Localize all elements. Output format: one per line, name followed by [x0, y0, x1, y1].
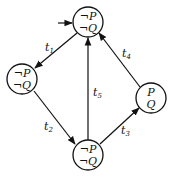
node-left-line2: ¬Q [13, 79, 31, 92]
state-node-right: P Q [136, 83, 166, 113]
edge-label-t1: t1 [45, 41, 54, 55]
edge-t2 [34, 91, 75, 144]
edge-label-t3: t3 [121, 124, 130, 138]
node-right-line2: Q [146, 98, 155, 111]
edge-t4 [99, 33, 140, 87]
edge-label-t4: t4 [122, 47, 131, 61]
edge-t1 [35, 33, 77, 68]
edge-label-t2: t2 [44, 120, 53, 134]
state-node-bottom: ¬P ¬Q [73, 140, 103, 170]
edge-label-t5: t5 [93, 86, 102, 100]
state-node-top: ¬P ¬Q [73, 7, 103, 37]
node-bottom-line2: ¬Q [79, 155, 97, 168]
node-top-line2: ¬Q [79, 22, 97, 35]
state-diagram: ¬P ¬Q ¬P ¬Q ¬P ¬Q P Q t1 t2 t3 t4 t5 [0, 0, 178, 179]
edge-t3 [100, 108, 139, 144]
state-node-left: ¬P ¬Q [7, 64, 37, 94]
